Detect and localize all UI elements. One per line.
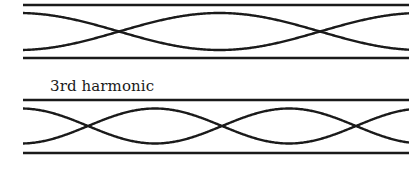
lower-wave-envelope-b <box>23 109 409 144</box>
lower-wave-envelope-a <box>23 109 409 144</box>
lower-standing-wave-diagram <box>0 0 409 175</box>
